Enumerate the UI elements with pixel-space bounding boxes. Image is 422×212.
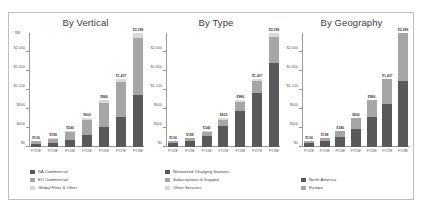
bar-segment[interactable] [116, 117, 126, 147]
bar-value-label: $346 [66, 126, 74, 130]
bar-value-label: $1,437 [382, 74, 392, 78]
bar-segment[interactable] [133, 95, 143, 147]
y-tick-by-geography-3 [299, 89, 302, 90]
chart-title-by-geography: By Geography [284, 17, 413, 28]
bar-group[interactable]: $198FY23E [320, 33, 330, 147]
bar-group[interactable]: $986FY26E [99, 33, 109, 147]
y-tick-by-vertical-1 [26, 127, 29, 128]
bar-segment[interactable] [235, 111, 245, 147]
legend-item[interactable]: Networked Charging Stations [164, 169, 229, 176]
bar-segment[interactable] [31, 144, 41, 147]
bar-group[interactable]: $2,399FY28E [133, 33, 143, 147]
bar-segment[interactable] [218, 126, 228, 147]
y-tick-by-geography-2 [299, 108, 302, 109]
legend-label: Networked Charging Stations [173, 169, 229, 174]
legend-item[interactable]: Europe [300, 185, 336, 192]
bar-group[interactable]: $986FY26E [367, 33, 377, 147]
x-axis-label: FY28E [133, 149, 143, 153]
x-axis-label: FY23E [48, 149, 58, 153]
chart-frame: By Vertical $M $0$400$800$1,200$1,600$2,… [8, 12, 414, 200]
bar-segment[interactable] [168, 143, 178, 147]
bar-segment[interactable] [351, 118, 361, 129]
y-tick-by-type-1 [163, 127, 166, 128]
bar-segment[interactable] [398, 81, 408, 148]
bar-group[interactable]: $602FY25E [351, 33, 361, 147]
bar-segment[interactable] [65, 140, 75, 147]
y-tick-label-by-geography-3: $1,200 [287, 84, 298, 88]
bar-group[interactable]: $136FY22E [304, 33, 314, 147]
bar-segment[interactable] [202, 136, 212, 147]
bar-segment[interactable] [269, 63, 279, 147]
bar-group[interactable]: $198FY23E [185, 33, 195, 147]
bar-group[interactable]: $1,437FY27E [252, 33, 262, 147]
bar-value-label: $346 [203, 126, 211, 130]
bar-segment[interactable] [99, 127, 109, 147]
y-tick-label-by-vertical-4: $1,600 [14, 65, 25, 69]
legend-item[interactable]: EU Commercial [29, 177, 77, 184]
y-tick-label-by-vertical-1: $400 [17, 122, 25, 126]
bar-segment[interactable] [269, 37, 279, 64]
bar-segment[interactable] [82, 135, 92, 147]
x-axis-label: FY22E [304, 149, 314, 153]
legend-label: EU Commercial [38, 177, 68, 182]
chart-panel-by-geography: By Geography $0$400$800$1,200$1,600$2,00… [284, 13, 413, 199]
legend-swatch-icon [300, 177, 307, 184]
legend-swatch-icon [29, 185, 36, 192]
x-axis-label: FY24E [202, 149, 212, 153]
bar-segment[interactable] [367, 100, 377, 116]
bar-group[interactable]: $346FY24E [65, 33, 75, 147]
axis-units-label-by-vertical: $M [15, 31, 20, 35]
y-tick-by-type-4 [163, 70, 166, 71]
legend-item[interactable]: NA Commercial [29, 169, 77, 176]
x-axis-label: FY23E [320, 149, 330, 153]
bar-group[interactable]: $346FY24E [202, 33, 212, 147]
legend-item[interactable]: Other Services [164, 185, 229, 192]
bar-segment[interactable] [367, 117, 377, 147]
legend-label: Global Fleet & Other [38, 185, 77, 190]
legend-label: Other Services [173, 185, 201, 190]
bar-group[interactable]: $1,437FY27E [382, 33, 392, 147]
bar-value-label: $346 [337, 126, 345, 130]
legend-swatch-icon [164, 169, 171, 176]
bar-value-label: $2,399 [133, 28, 143, 32]
bar-segment[interactable] [235, 102, 245, 111]
bar-group[interactable]: $602FY25E [218, 33, 228, 147]
bar-group[interactable]: $986FY26E [235, 33, 245, 147]
bar-segment[interactable] [185, 141, 195, 147]
bar-segment[interactable] [133, 38, 143, 95]
bar-segment[interactable] [252, 93, 262, 147]
bar-segment[interactable] [382, 104, 392, 147]
bar-group[interactable]: $1,437FY27E [116, 33, 126, 147]
bar-group[interactable]: $136FY22E [31, 33, 41, 147]
bar-segment[interactable] [335, 137, 345, 147]
bar-segment[interactable] [82, 120, 92, 134]
bar-group[interactable]: $198FY23E [48, 33, 58, 147]
bar-group[interactable]: $2,399FY28E [269, 33, 279, 147]
bar-segment[interactable] [320, 141, 330, 147]
bar-segment[interactable] [398, 33, 408, 80]
bar-segment[interactable] [48, 143, 58, 147]
x-axis-label: FY26E [235, 149, 245, 153]
bar-segment[interactable] [116, 82, 126, 117]
x-axis-label: FY27E [382, 149, 392, 153]
bar-segment[interactable] [252, 81, 262, 93]
legend-item[interactable]: Global Fleet & Other [29, 185, 77, 192]
bar-segment[interactable] [304, 143, 314, 147]
legend-item[interactable]: Subscriptions & Support [164, 177, 229, 184]
bar-segment[interactable] [351, 129, 361, 147]
y-tick-label-by-vertical-5: $2,000 [14, 46, 25, 50]
bar-group[interactable]: $346FY24E [335, 33, 345, 147]
x-axis-label: FY25E [82, 149, 92, 153]
bar-group[interactable]: $136FY22E [168, 33, 178, 147]
bar-segment[interactable] [382, 79, 392, 105]
bar-value-label: $602 [352, 113, 360, 117]
bar-value-label: $986 [368, 95, 376, 99]
bar-group[interactable]: $602FY25E [82, 33, 92, 147]
bar-segment[interactable] [99, 103, 109, 127]
legend-by-vertical: NA CommercialEU CommercialGlobal Fleet &… [29, 169, 77, 192]
y-tick-by-geography-4 [299, 70, 302, 71]
bar-group[interactable]: $2,399FY28E [398, 33, 408, 147]
legend-item[interactable]: North America [300, 177, 336, 184]
legend-label: NA Commercial [38, 169, 68, 174]
bar-segment[interactable] [65, 132, 75, 140]
